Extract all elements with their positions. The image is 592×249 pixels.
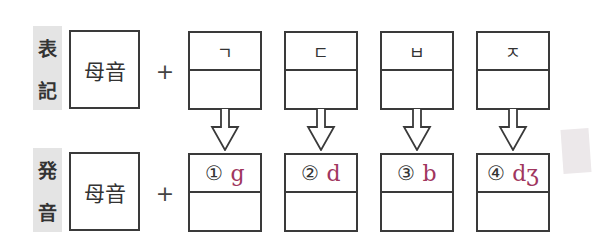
pronunciation-plus-sign: + bbox=[154, 183, 176, 205]
item-number: ③ bbox=[397, 161, 415, 185]
notation-label-char-2: 記 bbox=[38, 76, 57, 103]
notation-cell-1: ㄱ bbox=[188, 31, 262, 110]
notation-cell-2: ㄷ bbox=[284, 31, 358, 110]
pronunciation-label-char-1: 発 bbox=[38, 156, 57, 183]
down-arrow-icon bbox=[306, 109, 336, 151]
down-arrow-icon bbox=[402, 109, 432, 151]
notation-cell-3: ㅂ bbox=[380, 31, 454, 110]
notation-cell-4: ㅈ bbox=[476, 31, 550, 110]
item-number: ① bbox=[205, 161, 223, 185]
pronunciation-vowel-box: 母音 bbox=[69, 152, 140, 231]
pronunciation-label: 発 音 bbox=[33, 148, 62, 232]
ipa-symbol: d bbox=[326, 161, 340, 186]
hangul-consonant: ㄱ bbox=[217, 39, 233, 64]
notation-label-char-1: 表 bbox=[38, 34, 57, 61]
down-arrow-icon bbox=[498, 109, 528, 151]
notation-label: 表 記 bbox=[33, 26, 62, 110]
pronunciation-vowel-text: 母音 bbox=[84, 177, 126, 207]
paper-scrap-decoration bbox=[560, 128, 591, 174]
item-number: ② bbox=[301, 161, 319, 185]
pronunciation-cell-2: ② d bbox=[284, 153, 358, 232]
down-arrow-icon bbox=[210, 109, 240, 151]
hangul-consonant: ㅈ bbox=[505, 39, 521, 64]
item-number: ④ bbox=[487, 161, 505, 185]
hangul-consonant: ㅂ bbox=[409, 39, 425, 64]
notation-vowel-text: 母音 bbox=[84, 55, 126, 85]
hangul-consonant: ㄷ bbox=[313, 39, 329, 64]
pronunciation-cell-1: ① g bbox=[188, 153, 262, 232]
notation-plus-sign: + bbox=[154, 61, 176, 83]
pronunciation-cell-4: ④ dʒ bbox=[476, 153, 550, 232]
pronunciation-cell-3: ③ b bbox=[380, 153, 454, 232]
ipa-symbol: g bbox=[230, 161, 244, 186]
pronunciation-label-char-2: 音 bbox=[38, 198, 57, 225]
notation-vowel-box: 母音 bbox=[69, 30, 140, 109]
ipa-symbol: dʒ bbox=[512, 161, 539, 186]
ipa-symbol: b bbox=[422, 161, 436, 186]
